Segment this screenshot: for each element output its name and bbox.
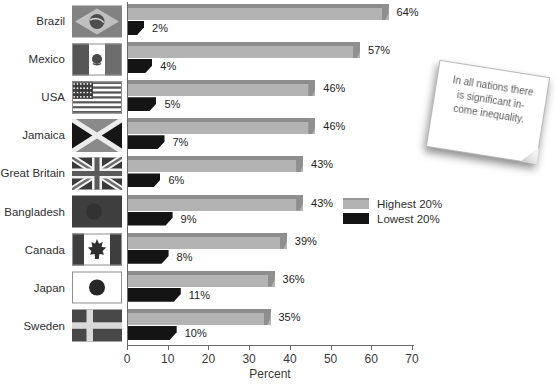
country-row: Jamaica	[22, 116, 122, 154]
country-row: Brazil	[36, 2, 122, 40]
great-britain-flag-icon	[72, 157, 122, 190]
x-tick	[290, 346, 291, 350]
lowest-20-swatch-icon	[343, 213, 369, 224]
legend-item-highest: Highest 20%	[343, 196, 442, 211]
country-row: Bangladesh	[4, 193, 122, 231]
legend-label-highest: Highest 20%	[377, 198, 442, 210]
country-row: Japan	[34, 269, 122, 307]
x-axis: 010203040506070 Percent	[127, 2, 557, 385]
country-label: Japan	[34, 282, 65, 294]
x-tick	[208, 346, 209, 350]
x-tick	[249, 346, 250, 350]
jamaica-flag-icon	[72, 119, 122, 152]
legend: Highest 20% Lowest 20%	[343, 196, 442, 226]
x-tick-label: 0	[114, 352, 140, 366]
country-label: Brazil	[36, 15, 65, 27]
country-row: Sweden	[23, 307, 122, 345]
legend-label-lowest: Lowest 20%	[377, 213, 440, 225]
bangladesh-flag-icon	[72, 195, 122, 228]
x-tick-label: 40	[277, 352, 303, 366]
x-tick-label: 30	[236, 352, 262, 366]
japan-flag-icon	[72, 271, 122, 304]
x-tick	[127, 346, 128, 350]
x-tick-label: 60	[358, 352, 384, 366]
usa-flag-icon	[72, 81, 122, 114]
country-labels-column: BrazilMexicoUSAJamaicaGreat BritainBangl…	[0, 0, 122, 345]
annotation-note: In all nations there is significant in- …	[426, 60, 550, 164]
country-row: USA	[41, 78, 122, 116]
brazil-flag-icon	[72, 5, 122, 38]
legend-item-lowest: Lowest 20%	[343, 211, 442, 226]
note-text: In all nations there is significant in- …	[426, 60, 550, 164]
x-tick	[331, 346, 332, 350]
x-tick	[168, 346, 169, 350]
mexico-flag-icon	[72, 43, 122, 76]
country-row: Canada	[25, 231, 122, 269]
x-axis-title: Percent	[127, 367, 413, 381]
x-tick-label: 70	[399, 352, 425, 366]
country-label: Sweden	[23, 320, 65, 332]
country-label: Great Britain	[0, 167, 65, 179]
sweden-flag-icon	[72, 309, 122, 342]
country-label: Bangladesh	[4, 206, 65, 218]
x-tick-label: 10	[155, 352, 181, 366]
country-label: USA	[41, 91, 65, 103]
country-label: Mexico	[29, 53, 65, 65]
country-label: Canada	[25, 244, 65, 256]
y-axis-line	[127, 2, 128, 345]
country-row: Great Britain	[0, 154, 122, 192]
canada-flag-icon	[72, 233, 122, 266]
country-label: Jamaica	[22, 129, 65, 141]
x-tick	[412, 346, 413, 350]
x-tick-label: 50	[318, 352, 344, 366]
x-tick	[371, 346, 372, 350]
income-inequality-bar-chart: BrazilMexicoUSAJamaicaGreat BritainBangl…	[0, 0, 557, 385]
country-row: Mexico	[29, 40, 122, 78]
highest-20-swatch-icon	[343, 198, 369, 209]
x-tick-label: 20	[195, 352, 221, 366]
